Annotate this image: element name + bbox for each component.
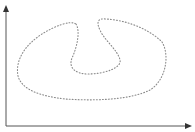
- diagram-canvas: [0, 0, 195, 132]
- x-axis-arrow-icon: [185, 123, 192, 129]
- dotted-closed-curve: [17, 19, 166, 100]
- y-axis-arrow-icon: [3, 5, 9, 12]
- axes: [3, 5, 192, 129]
